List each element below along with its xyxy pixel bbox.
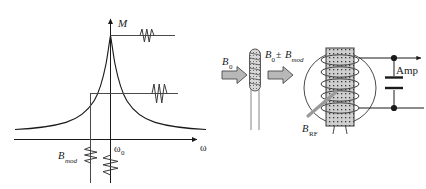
modulated-field-label: B 0 ± B mod bbox=[265, 49, 304, 64]
figure-root: M ω ω 0 B mod bbox=[0, 0, 426, 189]
sample-volume bbox=[326, 48, 354, 126]
sample-tube-assembly bbox=[250, 49, 261, 130]
modulated-field-plusminus: ± bbox=[276, 50, 281, 60]
y-axis-label: M bbox=[117, 17, 128, 29]
probe-and-detection-circuit: B 0 B 0 ± B mod B RF Amp bbox=[222, 48, 424, 138]
resonance-lineshape-plot: M ω ω 0 B mod bbox=[14, 17, 207, 183]
amplifier-label: Amp bbox=[396, 64, 419, 76]
rf-field-subscript: RF bbox=[309, 130, 318, 138]
static-field-subscript: 0 bbox=[229, 63, 233, 71]
rf-field-symbol: B bbox=[302, 123, 309, 134]
figure-svg: M ω ω 0 B mod bbox=[0, 0, 426, 189]
x-axis-label: ω bbox=[200, 142, 207, 153]
static-field-symbol: B bbox=[222, 56, 229, 67]
center-frequency-subscript: 0 bbox=[121, 149, 125, 157]
sample-tube-stem bbox=[251, 88, 259, 130]
center-frequency-omega: ω bbox=[114, 143, 121, 154]
field-arrow-modulated bbox=[268, 67, 293, 84]
modulation-field-subscript: mod bbox=[65, 157, 78, 165]
field-arrow-b0 bbox=[222, 67, 247, 84]
modulated-field-subscript-0: 0 bbox=[272, 56, 276, 64]
circuit-node-bottom bbox=[391, 105, 397, 111]
modulated-field-subscript-mod: mod bbox=[292, 56, 305, 64]
center-frequency-label: ω 0 bbox=[114, 143, 125, 157]
modulation-field-symbol: B bbox=[58, 150, 65, 161]
rf-field-label: B RF bbox=[302, 123, 318, 138]
modulation-field-label: B mod bbox=[58, 150, 78, 165]
capacitor bbox=[385, 78, 403, 89]
static-field-label: B 0 bbox=[222, 56, 233, 71]
